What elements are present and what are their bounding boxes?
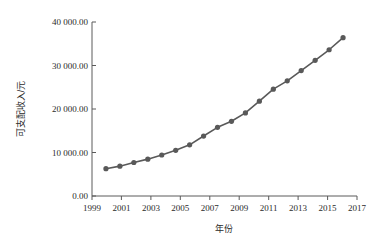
data-point [187,142,192,147]
x-tick-label-2005: 2005 [171,203,190,213]
x-tick-label-2013: 2013 [289,203,308,213]
data-point [201,133,206,138]
y-tick-label-0: 0.00 [72,191,88,201]
data-point [215,125,220,130]
x-tick-label-2009: 2009 [230,203,249,213]
data-point [243,110,248,115]
x-tick-label-2017: 2017 [348,203,367,213]
data-point [145,157,150,162]
data-point [257,99,262,104]
x-tick-label-2015: 2015 [319,203,338,213]
data-point [340,35,345,40]
data-point [285,78,290,83]
y-tick-label-20000: 20 000.00 [52,104,89,114]
data-point [299,68,304,73]
chart-container: 40 000.00 30 000.00 20 000.00 10 000.00 … [0,0,375,244]
data-point [229,119,234,124]
line-chart-plot: 40 000.00 30 000.00 20 000.00 10 000.00 … [0,0,375,244]
y-tick-label-40000: 40 000.00 [52,17,89,27]
data-point [131,160,136,165]
data-point [103,166,108,171]
x-tick-label-2007: 2007 [201,203,220,213]
data-point [313,58,318,63]
data-point [117,164,122,169]
data-point [271,87,276,92]
x-tick-label-2011: 2011 [260,203,278,213]
y-tick-label-30000: 30 000.00 [52,61,89,71]
x-tick-label-1999: 1999 [83,203,102,213]
y-axis-title: 可支配收入/元 [15,81,26,138]
x-tick-label-2003: 2003 [142,203,161,213]
data-point [159,152,164,157]
y-tick-label-10000: 10 000.00 [52,148,89,158]
data-point [327,47,332,52]
data-point [173,148,178,153]
x-axis-title: 年份 [215,223,233,234]
x-tick-label-2001: 2001 [112,203,130,213]
